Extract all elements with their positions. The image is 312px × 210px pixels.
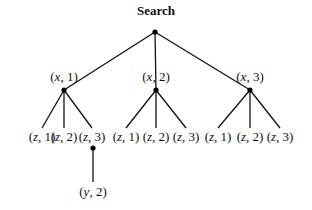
node-label-z3-under-x3: (z, 3) — [267, 129, 294, 145]
node-label-x2: (x, 2) — [142, 69, 169, 85]
edge-x1-to-z1 — [42, 90, 64, 128]
edge-x2-to-z1 — [126, 90, 156, 128]
node-label-z3-under-x1: (z, 3) — [79, 129, 106, 145]
node-label-z2-under-x1: (z, 2) — [51, 129, 78, 145]
node-dot-x2 — [153, 87, 158, 92]
node-label-x3: (x, 3) — [236, 69, 263, 85]
node-label-z3-under-x2: (z, 3) — [173, 129, 200, 145]
edge-x2-to-z3 — [156, 90, 186, 128]
node-label-z1-under-x3: (z, 1) — [205, 129, 232, 145]
node-dot-x3 — [247, 87, 252, 92]
node-dot-x1 — [61, 87, 66, 92]
node-label-z2-under-x3: (z, 2) — [237, 129, 264, 145]
node-label-z1-under-x2: (z, 1) — [113, 129, 140, 145]
edge-x3-to-z1 — [218, 90, 250, 128]
node-label-z2-under-x2: (z, 2) — [143, 129, 170, 145]
edge-x3-to-z3 — [250, 90, 280, 128]
search-tree — [0, 0, 312, 210]
node-dot-z3 — [90, 145, 95, 150]
node-label-x1: (x, 1) — [50, 69, 77, 85]
edge-x1-to-z3 — [64, 90, 92, 128]
root-node-dot — [152, 29, 157, 34]
node-label-y2: (y, 2) — [79, 184, 106, 200]
